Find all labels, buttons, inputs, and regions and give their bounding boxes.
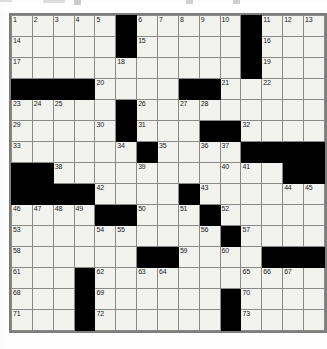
crossword-cell[interactable] — [262, 163, 283, 184]
crossword-cell[interactable] — [262, 289, 283, 310]
crossword-cell[interactable] — [220, 184, 241, 205]
crossword-cell-63[interactable]: 63 — [137, 268, 158, 289]
crossword-cell[interactable] — [158, 226, 179, 247]
crossword-cell[interactable] — [32, 37, 53, 58]
crossword-cell-1[interactable]: 1 — [12, 16, 33, 37]
crossword-cell-64[interactable]: 64 — [158, 268, 179, 289]
crossword-cell[interactable] — [178, 58, 199, 79]
crossword-cell-59[interactable]: 59 — [178, 247, 199, 268]
crossword-cell[interactable] — [178, 142, 199, 163]
crossword-cell[interactable] — [53, 247, 74, 268]
crossword-cell[interactable] — [283, 121, 304, 142]
crossword-cell[interactable] — [53, 310, 74, 331]
crossword-cell[interactable] — [178, 121, 199, 142]
crossword-cell-42[interactable]: 42 — [95, 184, 116, 205]
crossword-cell-40[interactable]: 40 — [220, 163, 241, 184]
crossword-cell[interactable] — [262, 226, 283, 247]
crossword-cell[interactable] — [178, 268, 199, 289]
crossword-cell-51[interactable]: 51 — [178, 205, 199, 226]
crossword-cell-33[interactable]: 33 — [12, 142, 33, 163]
crossword-cell[interactable] — [304, 37, 325, 58]
crossword-cell-12[interactable]: 12 — [283, 16, 304, 37]
crossword-cell-34[interactable]: 34 — [116, 142, 137, 163]
crossword-cell-29[interactable]: 29 — [12, 121, 33, 142]
crossword-cell[interactable] — [304, 58, 325, 79]
crossword-cell-55[interactable]: 55 — [116, 226, 137, 247]
crossword-cell[interactable] — [262, 100, 283, 121]
crossword-cell[interactable] — [116, 247, 137, 268]
crossword-cell-67[interactable]: 67 — [283, 268, 304, 289]
crossword-cell[interactable] — [283, 37, 304, 58]
crossword-cell-38[interactable]: 38 — [53, 163, 74, 184]
crossword-cell[interactable] — [241, 247, 262, 268]
crossword-cell[interactable] — [137, 58, 158, 79]
crossword-cell[interactable] — [74, 121, 95, 142]
crossword-cell-3[interactable]: 3 — [53, 16, 74, 37]
crossword-cell-11[interactable]: 11 — [262, 16, 283, 37]
crossword-cell-4[interactable]: 4 — [74, 16, 95, 37]
crossword-cell[interactable] — [158, 289, 179, 310]
crossword-cell-8[interactable]: 8 — [178, 16, 199, 37]
crossword-cell[interactable] — [283, 226, 304, 247]
crossword-cell[interactable] — [116, 163, 137, 184]
crossword-cell-27[interactable]: 27 — [178, 100, 199, 121]
crossword-cell[interactable] — [32, 289, 53, 310]
crossword-cell[interactable] — [283, 100, 304, 121]
crossword-cell[interactable] — [304, 79, 325, 100]
crossword-cell-41[interactable]: 41 — [241, 163, 262, 184]
crossword-cell[interactable] — [283, 79, 304, 100]
crossword-cell[interactable] — [178, 37, 199, 58]
crossword-cell-50[interactable]: 50 — [137, 205, 158, 226]
crossword-cell[interactable] — [241, 184, 262, 205]
crossword-cell-19[interactable]: 19 — [262, 58, 283, 79]
crossword-cell[interactable] — [74, 142, 95, 163]
crossword-cell[interactable] — [53, 58, 74, 79]
crossword-cell-20[interactable]: 20 — [95, 79, 116, 100]
crossword-cell[interactable] — [32, 58, 53, 79]
crossword-cell-39[interactable]: 39 — [137, 163, 158, 184]
crossword-cell[interactable] — [53, 121, 74, 142]
crossword-cell[interactable] — [53, 142, 74, 163]
crossword-cell[interactable] — [304, 205, 325, 226]
crossword-cell-9[interactable]: 9 — [199, 16, 220, 37]
crossword-cell[interactable] — [74, 163, 95, 184]
crossword-cell-71[interactable]: 71 — [12, 310, 33, 331]
crossword-cell[interactable] — [74, 37, 95, 58]
crossword-cell[interactable] — [158, 58, 179, 79]
crossword-cell[interactable] — [178, 163, 199, 184]
crossword-cell[interactable] — [53, 268, 74, 289]
crossword-cell[interactable] — [116, 184, 137, 205]
crossword-cell[interactable] — [32, 226, 53, 247]
crossword-cell-10[interactable]: 10 — [220, 16, 241, 37]
crossword-cell[interactable] — [137, 310, 158, 331]
crossword-cell[interactable] — [32, 268, 53, 289]
crossword-cell[interactable] — [199, 310, 220, 331]
crossword-cell[interactable] — [95, 100, 116, 121]
crossword-cell[interactable] — [116, 79, 137, 100]
crossword-cell[interactable] — [262, 205, 283, 226]
crossword-cell[interactable] — [178, 289, 199, 310]
crossword-cell-13[interactable]: 13 — [304, 16, 325, 37]
crossword-cell[interactable] — [178, 310, 199, 331]
crossword-cell-26[interactable]: 26 — [137, 100, 158, 121]
crossword-cell[interactable] — [199, 247, 220, 268]
crossword-cell[interactable] — [95, 37, 116, 58]
crossword-cell[interactable] — [304, 268, 325, 289]
crossword-cell[interactable] — [158, 79, 179, 100]
crossword-cell[interactable] — [304, 289, 325, 310]
crossword-cell-46[interactable]: 46 — [12, 205, 33, 226]
crossword-cell-17[interactable]: 17 — [12, 58, 33, 79]
crossword-cell[interactable] — [95, 58, 116, 79]
crossword-cell[interactable] — [178, 226, 199, 247]
crossword-cell-43[interactable]: 43 — [199, 184, 220, 205]
crossword-table[interactable]: 1234567891011121314151617181920212223242… — [11, 15, 325, 331]
crossword-cell-30[interactable]: 30 — [95, 121, 116, 142]
crossword-cell[interactable] — [53, 289, 74, 310]
crossword-cell-16[interactable]: 16 — [262, 37, 283, 58]
crossword-cell-48[interactable]: 48 — [53, 205, 74, 226]
crossword-cell[interactable] — [158, 163, 179, 184]
crossword-cell[interactable] — [199, 163, 220, 184]
crossword-cell-23[interactable]: 23 — [12, 100, 33, 121]
crossword-cell[interactable] — [95, 247, 116, 268]
crossword-cell[interactable] — [158, 37, 179, 58]
